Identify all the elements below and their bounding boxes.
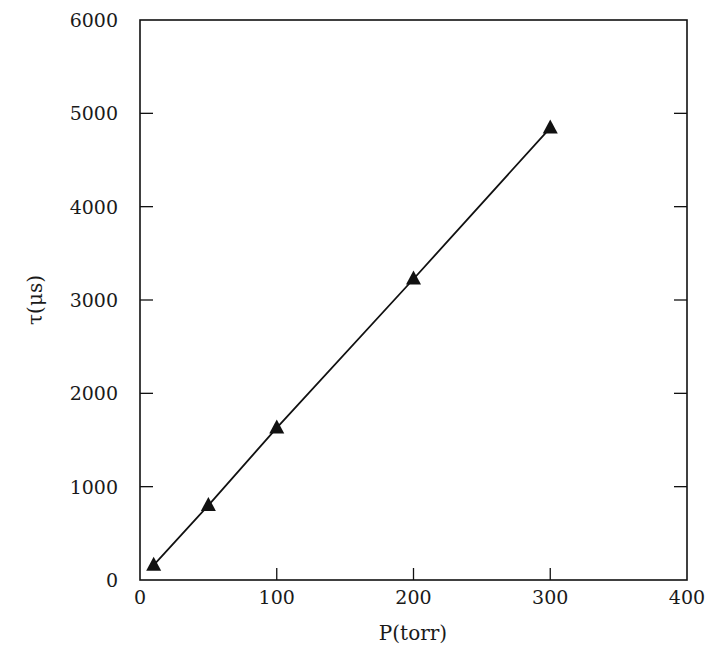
y-tick-label: 0 [106,569,118,591]
y-tick-label: 5000 [70,102,118,124]
y-tick-label: 2000 [70,382,118,404]
chart-canvas: 0100020003000400050006000 0100200300400 … [0,0,707,656]
y-tick-label: 6000 [70,9,118,31]
y-axis-label: τ(μs) [23,275,47,325]
x-tick-label: 0 [134,586,146,608]
y-tick-label: 4000 [70,196,118,218]
x-tick-label: 300 [532,586,568,608]
triangle-marker-icon [543,119,558,133]
data-series [146,119,558,570]
x-tick-label: 400 [669,586,705,608]
x-axis: 0100200300400 [134,568,705,608]
x-tick-label: 100 [259,586,295,608]
series-line [154,128,551,565]
y-tick-label: 3000 [70,289,118,311]
x-tick-label: 200 [395,586,431,608]
y-tick-label: 1000 [70,476,118,498]
y-axis: 0100020003000400050006000 [70,9,687,591]
x-axis-label: P(torr) [379,621,447,645]
plot-frame [140,20,687,580]
